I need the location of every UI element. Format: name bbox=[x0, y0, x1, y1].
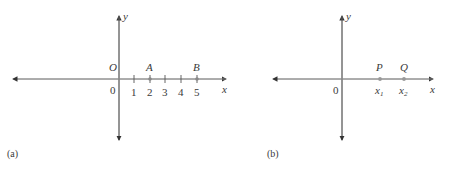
caption-a: (a) bbox=[7, 148, 18, 159]
y-axis-label-b: y bbox=[346, 11, 351, 22]
origin-label-a: O bbox=[109, 62, 117, 73]
point-b-dot bbox=[195, 77, 199, 81]
tick-label: 2 bbox=[147, 87, 153, 98]
panel-b-axes bbox=[273, 16, 433, 140]
point-a-label: A bbox=[146, 62, 153, 73]
x1-label: x1 bbox=[375, 85, 383, 100]
point-p-label: P bbox=[376, 62, 383, 73]
tick-label: 1 bbox=[131, 87, 137, 98]
point-q-dot bbox=[402, 77, 406, 81]
origin-value-b: 0 bbox=[333, 85, 339, 96]
tick-label: 5 bbox=[194, 87, 200, 98]
tick-label: 4 bbox=[178, 87, 184, 98]
caption-b: (b) bbox=[267, 148, 279, 159]
point-q-label: Q bbox=[400, 62, 408, 73]
panel-a-axes bbox=[13, 16, 226, 140]
tick-label: 3 bbox=[162, 87, 168, 98]
y-axis-label-a: y bbox=[123, 11, 128, 22]
point-p-dot bbox=[378, 77, 382, 81]
point-a-dot bbox=[148, 77, 152, 81]
point-b-label: B bbox=[193, 62, 200, 73]
x2-label: x2 bbox=[399, 85, 407, 100]
x-axis-label-b: x bbox=[430, 84, 435, 95]
origin-value-a: 0 bbox=[110, 85, 116, 96]
x-axis-label-a: x bbox=[222, 84, 227, 95]
